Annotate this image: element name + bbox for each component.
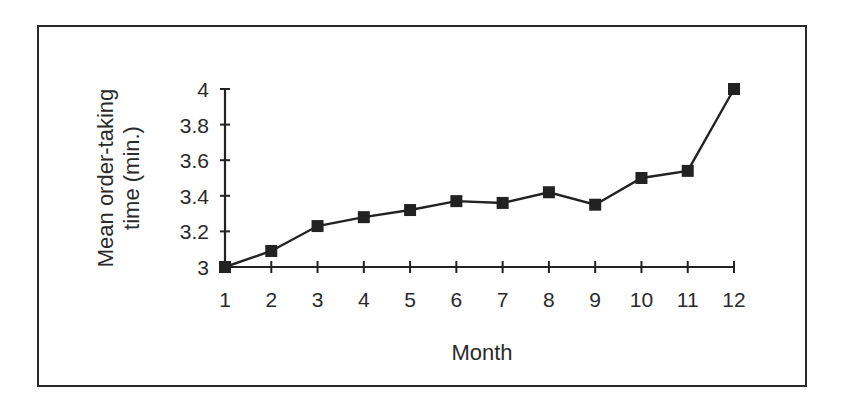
data-point-marker	[265, 245, 277, 257]
y-tick-label: 3.6	[180, 149, 209, 172]
data-point-marker	[589, 199, 601, 211]
y-axis-title-line-1: Mean order-taking	[93, 89, 118, 268]
y-axis-title: Mean order-taking time (min.)	[93, 89, 144, 268]
data-series	[219, 83, 740, 273]
data-point-marker	[312, 220, 324, 232]
y-axis-title-line-2: time (min.)	[119, 126, 144, 230]
x-tick-label: 7	[497, 288, 509, 311]
y-tick-label: 3.4	[180, 185, 210, 208]
x-tick-label: 11	[677, 288, 699, 311]
y-axis: 33.23.43.63.84	[180, 78, 230, 279]
data-point-marker	[682, 165, 694, 177]
data-point-marker	[497, 197, 509, 209]
data-point-marker	[450, 195, 462, 207]
x-axis: 123456789101112	[219, 261, 746, 311]
x-tick-label: 9	[589, 288, 601, 311]
x-axis-title: Month	[451, 340, 512, 365]
data-point-marker	[358, 211, 370, 223]
y-tick-label: 4	[197, 78, 209, 101]
data-point-marker	[543, 186, 555, 198]
x-tick-label: 1	[219, 288, 231, 311]
x-tick-label: 12	[722, 288, 745, 311]
x-tick-label: 5	[404, 288, 416, 311]
x-tick-label: 8	[543, 288, 555, 311]
x-tick-label: 2	[265, 288, 277, 311]
x-tick-label: 4	[358, 288, 370, 311]
line-chart: 33.23.43.63.84 123456789101112 Month Mea…	[0, 0, 844, 411]
y-tick-label: 3	[197, 256, 209, 279]
x-tick-label: 6	[451, 288, 463, 311]
y-tick-label: 3.8	[180, 114, 209, 137]
data-point-marker	[404, 204, 416, 216]
x-tick-label: 10	[630, 288, 653, 311]
data-point-marker	[728, 83, 740, 95]
x-tick-label: 3	[312, 288, 324, 311]
series-line	[225, 89, 734, 267]
data-point-marker	[219, 261, 231, 273]
data-point-marker	[635, 172, 647, 184]
y-tick-label: 3.2	[180, 220, 209, 243]
